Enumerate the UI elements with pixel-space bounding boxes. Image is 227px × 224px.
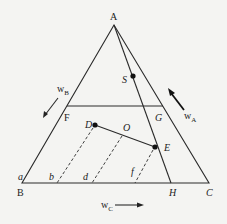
label-a: A — [110, 11, 118, 22]
label-e: E — [163, 142, 170, 153]
arrow-wc-icon — [115, 203, 144, 208]
label-f: F — [64, 112, 70, 123]
arrow-wb-icon — [43, 98, 58, 118]
label-d-mark: d — [83, 171, 89, 182]
label-d: D — [84, 119, 93, 130]
label-c: C — [206, 187, 213, 198]
point-e — [152, 144, 157, 149]
label-b: B — [17, 187, 24, 198]
label-wb: wB — [57, 83, 69, 97]
triangle-abc — [22, 25, 209, 183]
label-g: G — [155, 112, 162, 123]
label-wa: wA — [184, 110, 196, 124]
ternary-diagram: A B C H F G S D E O a b d f wB wA wC — [0, 0, 227, 224]
label-b-mark: b — [49, 171, 54, 182]
label-wc: wC — [101, 199, 113, 213]
point-d — [92, 122, 97, 127]
label-a-mark: a — [18, 171, 23, 182]
label-o: O — [123, 122, 130, 133]
point-s — [130, 73, 135, 78]
label-h: H — [168, 187, 177, 198]
dashed-e-f — [135, 150, 153, 183]
arrow-wa-icon — [168, 88, 184, 110]
dashed-o-d — [92, 136, 122, 183]
label-s: S — [122, 74, 127, 85]
label-f-mark: f — [131, 166, 135, 177]
line-a-h — [114, 25, 171, 183]
